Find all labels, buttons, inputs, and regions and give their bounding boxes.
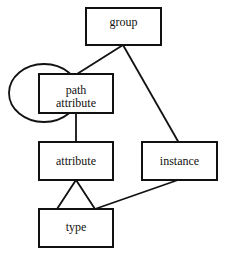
node-label: instance	[143, 155, 216, 168]
edge-group-path-attribute	[77, 45, 123, 74]
edge-instance-type	[95, 180, 178, 209]
node-instance: instance	[141, 141, 218, 181]
node-path-attribute: path attribute	[38, 73, 114, 114]
edge-group-instance	[123, 45, 179, 143]
edge-attribute-type-triangle	[57, 180, 95, 209]
node-label: group	[87, 16, 160, 29]
diagram-canvas: group path attribute attribute instance …	[0, 0, 227, 259]
node-label: attribute	[40, 155, 112, 168]
node-type: type	[38, 208, 114, 248]
node-label: type	[40, 221, 112, 234]
node-group: group	[85, 7, 162, 46]
node-label-line2: attribute	[40, 97, 112, 110]
node-attribute: attribute	[38, 141, 114, 181]
